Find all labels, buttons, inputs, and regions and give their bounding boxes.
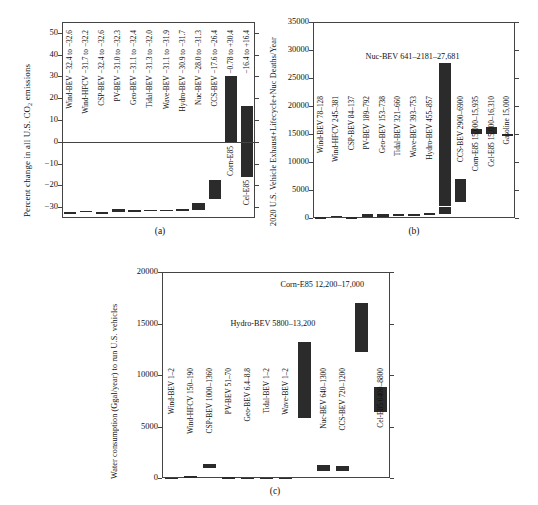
y-tick-mark bbox=[255, 164, 259, 165]
bar bbox=[346, 217, 357, 219]
y-tick-mark bbox=[309, 78, 313, 79]
bar bbox=[424, 213, 435, 215]
chart-annotation: Hydro-BEV 5800–13,200 bbox=[230, 319, 315, 328]
bar-label: Tidal-BEV 321–660 bbox=[394, 96, 401, 156]
bar-label: CCS-BEV 720–1200 bbox=[339, 368, 346, 431]
bar bbox=[160, 210, 173, 212]
y-tick-label: 15000 bbox=[271, 128, 309, 138]
bar-label: Hydro-BEV 455–857 bbox=[426, 96, 433, 160]
y-tick-label: 10000 bbox=[271, 156, 309, 166]
bar-label: Tidal-BEV −31.3 to −32.0 bbox=[146, 30, 153, 108]
panel-c-y-axis-label: Water consumption (Ggal/year) to run U.S… bbox=[110, 264, 119, 479]
y-tick-mark bbox=[255, 207, 259, 208]
bar bbox=[408, 214, 419, 216]
bar-label: Nuc-BEV 640–1300 bbox=[320, 368, 327, 429]
y-tick-mark bbox=[390, 324, 394, 325]
y-tick-label: 0 bbox=[120, 472, 158, 482]
y-tick-label: 15000 bbox=[120, 318, 158, 328]
panel-b-caption: (b) bbox=[394, 226, 434, 236]
y-tick-label: 25000 bbox=[271, 72, 309, 82]
y-tick-mark bbox=[158, 272, 162, 273]
y-tick-mark bbox=[158, 478, 162, 479]
y-tick-mark bbox=[515, 162, 519, 163]
chart-annotation: Nuc-BEV 641–2181–27,681 bbox=[366, 52, 460, 61]
bar bbox=[331, 216, 342, 218]
bar-label: Geo-BEV −31.1 to −32.4 bbox=[130, 30, 137, 105]
y-tick-mark bbox=[58, 207, 62, 208]
bar bbox=[144, 210, 157, 212]
y-tick-label: 20000 bbox=[120, 266, 158, 276]
bar-label: Tidal-BEV 1–2 bbox=[263, 368, 270, 413]
panel-a: Percent change in all U.S. CO2 emissions… bbox=[0, 0, 268, 248]
y-tick-label: −10 bbox=[20, 158, 58, 168]
y-tick-mark bbox=[515, 218, 519, 219]
y-tick-mark bbox=[309, 218, 313, 219]
bar bbox=[112, 209, 125, 212]
y-tick-label: 5000 bbox=[271, 184, 309, 194]
y-tick-mark bbox=[309, 162, 313, 163]
bar bbox=[260, 478, 274, 480]
y-tick-label: −30 bbox=[20, 201, 58, 211]
bar-label: PV-BEV −31.0 to −32.3 bbox=[114, 30, 121, 101]
y-tick-mark bbox=[58, 164, 62, 165]
panel-a-caption: (a) bbox=[140, 226, 180, 236]
y-tick-label: 5000 bbox=[120, 421, 158, 431]
y-tick-mark bbox=[58, 98, 62, 99]
bar-label: Wind-HFCV 150–190 bbox=[187, 368, 194, 434]
y-tick-mark bbox=[158, 324, 162, 325]
bar bbox=[279, 478, 293, 480]
bar bbox=[377, 214, 388, 217]
y-tick-label: 40 bbox=[20, 49, 58, 59]
y-tick-label: 30000 bbox=[271, 44, 309, 54]
bar bbox=[64, 212, 77, 214]
bar bbox=[209, 180, 222, 199]
bar-label: PV-BEV 189–792 bbox=[363, 96, 370, 150]
y-tick-mark bbox=[515, 134, 519, 135]
y-tick-mark bbox=[58, 55, 62, 56]
bar bbox=[80, 211, 93, 213]
bar bbox=[241, 478, 255, 480]
y-tick-mark bbox=[255, 55, 259, 56]
bar bbox=[128, 210, 141, 213]
bar-label: CSP-BEV −32.4 to −32.6 bbox=[98, 30, 105, 106]
y-tick-mark bbox=[255, 120, 259, 121]
bar bbox=[317, 465, 331, 472]
bar-label: Wave-BEV 1–2 bbox=[282, 368, 289, 415]
y-tick-mark bbox=[515, 78, 519, 79]
bar bbox=[192, 203, 205, 210]
bar bbox=[315, 217, 326, 219]
y-tick-mark bbox=[158, 427, 162, 428]
bar-label: −16.4 to +16.4 bbox=[243, 30, 250, 74]
bar-outer-label: Cel-E85 bbox=[243, 180, 251, 205]
bar-label: Wind-BEV 78–128 bbox=[317, 96, 324, 153]
y-tick-mark bbox=[309, 50, 313, 51]
y-tick-mark bbox=[58, 120, 62, 121]
bar-label: Cel-E85 6400–8800 bbox=[377, 368, 384, 428]
panel-c: Water consumption (Ggal/year) to run U.S… bbox=[100, 250, 430, 505]
bar-label: Wave-BEV 393–753 bbox=[410, 96, 417, 157]
y-tick-label: 50 bbox=[20, 27, 58, 37]
bar bbox=[439, 63, 450, 214]
y-tick-mark bbox=[58, 185, 62, 186]
bar bbox=[203, 464, 217, 468]
y-tick-label: 35000 bbox=[271, 16, 309, 26]
bar-label: Wind-BEV 1–2 bbox=[168, 368, 175, 414]
y-tick-mark bbox=[158, 375, 162, 376]
bar-label: CCS-BEV 2900–6900 bbox=[457, 96, 464, 162]
y-tick-label: −20 bbox=[20, 179, 58, 189]
y-tick-mark bbox=[255, 76, 259, 77]
y-tick-mark bbox=[309, 190, 313, 191]
bar-label: Cel-E85 15,000–16,310 bbox=[488, 96, 495, 167]
bar bbox=[298, 342, 312, 418]
y-tick-mark bbox=[255, 185, 259, 186]
bar-label: Hydro-BEV −30.9 to −31.7 bbox=[179, 30, 186, 112]
bar-label: Wind-BEV −32.4 to −32.6 bbox=[66, 30, 73, 109]
bar-label: Nuc-BEV −28.0 to −31.3 bbox=[195, 30, 202, 105]
y-tick-mark bbox=[390, 427, 394, 428]
y-tick-label: 0 bbox=[20, 136, 58, 146]
y-tick-label: 20 bbox=[20, 92, 58, 102]
bar-label: Wave-BEV −31.1 to −31.9 bbox=[163, 30, 170, 109]
y-tick-mark bbox=[390, 375, 394, 376]
bar bbox=[455, 179, 466, 201]
y-tick-mark bbox=[58, 33, 62, 34]
